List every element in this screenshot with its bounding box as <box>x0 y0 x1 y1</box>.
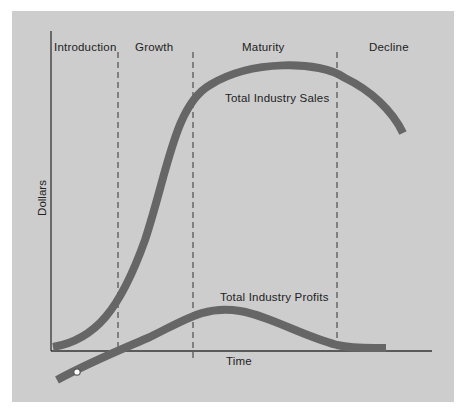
profits-curve-label: Total Industry Profits <box>220 291 329 303</box>
sales-curve-label: Total Industry Sales <box>225 92 329 104</box>
stage-decline-label: Decline <box>369 41 409 53</box>
y-axis-label: Dollars <box>36 180 48 216</box>
ring-marker <box>74 369 80 375</box>
stage-introduction-label: Introduction <box>54 41 117 53</box>
sales-curve <box>53 65 403 347</box>
stage-maturity-label: Maturity <box>242 41 285 53</box>
x-axis-label: Time <box>226 355 252 367</box>
stage-growth-label: Growth <box>135 41 173 53</box>
